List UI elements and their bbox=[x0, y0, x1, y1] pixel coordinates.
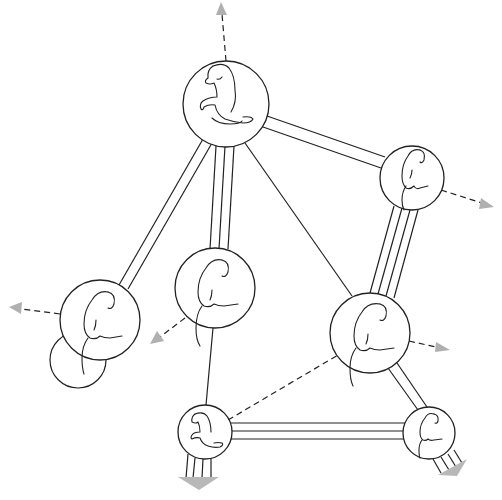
link-center-right-bottom-right bbox=[388, 363, 427, 410]
monkey-social-network-diagram bbox=[0, 0, 502, 500]
outward-arrow-right-upper bbox=[441, 190, 494, 209]
diagram-canvas bbox=[0, 0, 502, 500]
outward-arrow-center-right bbox=[409, 341, 450, 352]
node-center-left[interactable] bbox=[175, 248, 255, 346]
dashed-link-bottom-left-center-right bbox=[228, 355, 338, 420]
link-top-center-right bbox=[245, 143, 352, 296]
node-top[interactable] bbox=[183, 61, 269, 147]
link-right-upper-center-right bbox=[370, 206, 418, 298]
node-bottom-left[interactable] bbox=[178, 405, 232, 459]
link-center-left-bottom-left bbox=[206, 328, 213, 405]
link-top-right-upper bbox=[263, 116, 385, 168]
link-top-center-left bbox=[210, 146, 234, 249]
link-bottom-left-bottom-right bbox=[230, 423, 405, 439]
outward-band-arrow-bottom-left bbox=[178, 454, 219, 490]
outward-arrow-center-left bbox=[150, 318, 185, 344]
node-center-right[interactable] bbox=[330, 293, 410, 386]
node-bottom-right[interactable] bbox=[403, 407, 455, 459]
node-right-upper[interactable] bbox=[380, 146, 444, 210]
outward-arrow-left bbox=[9, 302, 60, 314]
outward-arrow-top bbox=[216, 2, 227, 61]
